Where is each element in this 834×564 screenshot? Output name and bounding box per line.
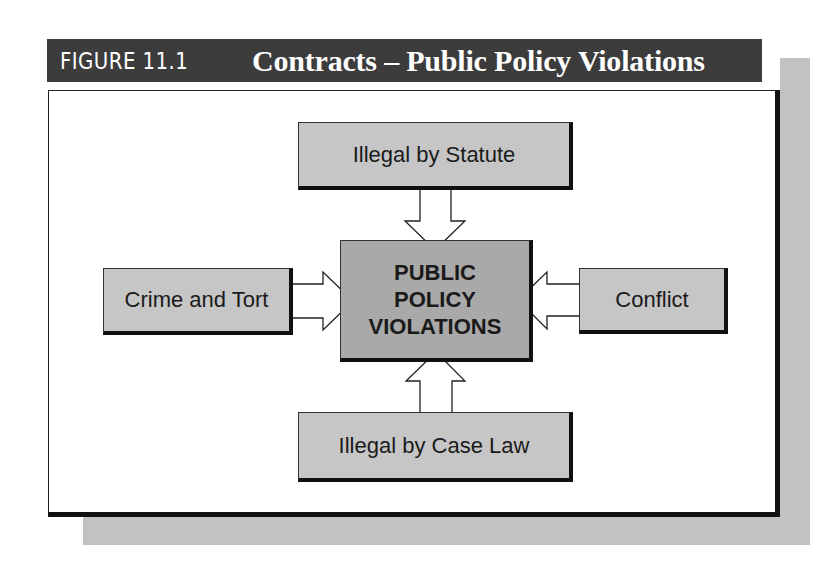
node-label: Illegal by Case Law xyxy=(339,433,530,459)
node-label: Crime and Tort xyxy=(125,287,269,313)
node-label: Illegal by Statute xyxy=(353,142,516,168)
node-label: Conflict xyxy=(615,287,688,313)
center-label-line-1: PUBLIC xyxy=(394,259,476,286)
center-label-line-2: POLICY xyxy=(394,286,476,313)
frame-shadow-right xyxy=(780,58,810,545)
node-illegal-by-case-law: Illegal by Case Law xyxy=(298,412,573,482)
figure-header: FIGURE 11.1 Contracts – Public Policy Vi… xyxy=(47,39,762,82)
node-public-policy-violations: PUBLIC POLICY VIOLATIONS xyxy=(340,240,533,362)
frame-shadow-bottom xyxy=(83,517,810,545)
node-conflict: Conflict xyxy=(579,268,728,334)
center-label-line-3: VIOLATIONS xyxy=(369,313,502,340)
figure-label: FIGURE 11.1 xyxy=(60,48,202,74)
figure-title: Contracts – Public Policy Violations xyxy=(252,44,705,78)
node-illegal-by-statute: Illegal by Statute xyxy=(298,122,573,190)
node-crime-and-tort: Crime and Tort xyxy=(103,268,293,335)
